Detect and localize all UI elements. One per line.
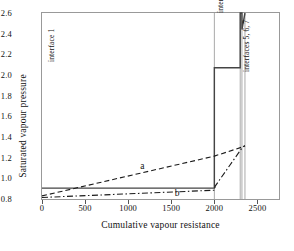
x-tick-mark: [214, 200, 215, 204]
y-tick-label: 1.6: [1, 111, 12, 121]
x-tick-label: 2000: [205, 203, 223, 213]
y-tick-label: 0.8: [1, 194, 12, 204]
y-tick-label: 2.0: [1, 70, 12, 80]
y-tick-label: 1.0: [1, 173, 12, 183]
x-axis-title: Cumulative vapour resistance: [41, 220, 280, 230]
y-tick-label: 2.4: [1, 29, 12, 39]
x-tick-label: 2500: [249, 203, 267, 213]
x-tick-label: 500: [78, 203, 91, 213]
annotation-interfaces-567: interfaces 5, 6, 7: [242, 20, 251, 72]
annotation-interfaces-234: interfaces 2,3,4: [216, 0, 225, 13]
curve-label-b: b: [175, 188, 180, 198]
x-tick-mark: [85, 200, 86, 204]
y-tick-label: 1.8: [1, 91, 12, 101]
x-tick-label: 1000: [119, 203, 137, 213]
y-tick-label: 2.2: [1, 49, 12, 59]
annotation-interface-1: interface 1: [47, 28, 56, 61]
y-tick-label: 1.2: [1, 153, 12, 163]
chart-figure: Saturated vapour pressure 0.81.01.21.41.…: [0, 0, 294, 251]
plot-inner: interface 1 interfaces 2,3,4 interfaces …: [42, 13, 279, 199]
x-tick-mark: [257, 200, 258, 204]
plot-area: interface 1 interfaces 2,3,4 interfaces …: [41, 12, 280, 200]
y-axis-title: Saturated vapour pressure: [18, 51, 28, 201]
x-tick-mark: [42, 200, 43, 204]
y-tick-label: 1.4: [1, 132, 12, 142]
y-tick-label: 2.6: [1, 8, 12, 18]
x-tick-mark: [171, 200, 172, 204]
curve-label-a: a: [140, 161, 144, 171]
x-tick-label: 0: [40, 203, 44, 213]
x-tick-mark: [128, 200, 129, 204]
x-tick-label: 1500: [162, 203, 180, 213]
